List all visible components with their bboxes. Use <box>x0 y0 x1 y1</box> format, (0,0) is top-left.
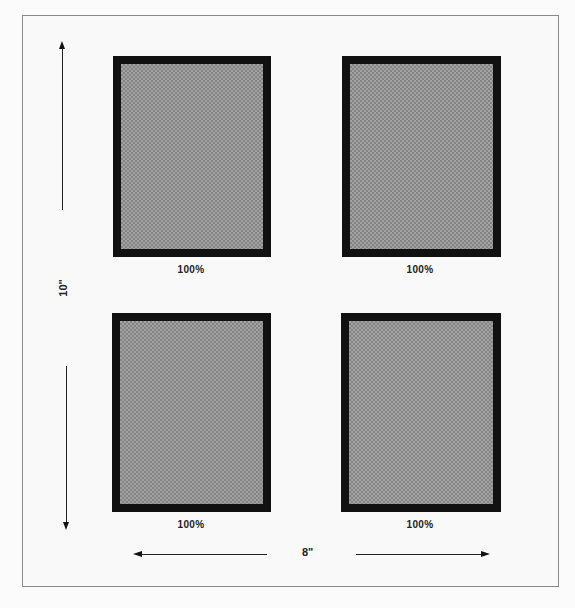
frame-bottom-right-label: 100% <box>380 519 460 530</box>
frame-top-right-label: 100% <box>380 264 460 275</box>
width-dimension-line-left <box>141 554 267 556</box>
width-dimension-label: 8" <box>302 546 313 558</box>
arrow-down-icon <box>63 522 69 530</box>
frame-bottom-left-label: 100% <box>151 519 231 530</box>
frame-top-right <box>342 56 501 257</box>
width-dimension-line-right <box>356 554 482 556</box>
frame-top-left <box>113 56 271 257</box>
height-dimension-line-bottom <box>66 366 68 523</box>
height-dimension-line-top <box>62 48 64 210</box>
height-dimension-label: 10" <box>57 279 69 296</box>
arrow-right-icon <box>481 551 490 557</box>
frame-bottom-right <box>341 313 501 512</box>
frame-bottom-left <box>112 313 271 512</box>
frame-top-left-label: 100% <box>151 264 231 275</box>
